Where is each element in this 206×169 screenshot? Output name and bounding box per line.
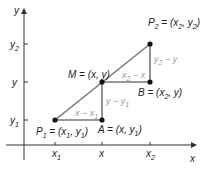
label-p1: P1 = (x1, y1) bbox=[36, 126, 88, 139]
segment-label-y-minus-y1: y − y1 bbox=[105, 96, 129, 108]
label-m: M = (x, y) bbox=[68, 69, 110, 80]
y-axis-label: y bbox=[13, 5, 20, 16]
label-b: B = (x2, y) bbox=[138, 87, 182, 100]
segment-label-y2-minus-y: y2 − y bbox=[153, 54, 178, 66]
midpoint-diagram: y x y2 y y1 x1 x x2 P2 = (x2, y2) M = (x… bbox=[0, 0, 206, 169]
point-m bbox=[99, 79, 104, 84]
y-tick-y1: y1 bbox=[9, 115, 19, 128]
x-tick-x1: x1 bbox=[51, 148, 61, 161]
x-axis-label: x bbox=[189, 153, 196, 164]
point-p1 bbox=[52, 117, 57, 122]
point-a bbox=[99, 117, 104, 122]
segment-label-x-minus-x1: x − x1 bbox=[74, 108, 98, 120]
x-tick-x2: x2 bbox=[145, 148, 155, 161]
y-tick-y2: y2 bbox=[9, 39, 19, 52]
y-ticks bbox=[24, 44, 28, 120]
segment-label-x2-minus-x: x2 − x bbox=[121, 70, 146, 82]
label-a: A = (x, y1) bbox=[97, 124, 142, 137]
y-tick-y: y bbox=[11, 77, 18, 88]
point-p2 bbox=[147, 41, 152, 46]
x-tick-x: x bbox=[98, 148, 105, 159]
label-p2: P2 = (x2, y2) bbox=[148, 17, 200, 30]
point-b bbox=[147, 79, 152, 84]
